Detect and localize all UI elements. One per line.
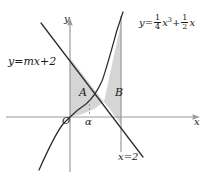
alpha-label: α: [85, 117, 92, 127]
fraction-numerator: 1: [181, 14, 188, 22]
curve-fraction-one-quarter: 1 4: [154, 14, 161, 32]
origin-label: O: [62, 116, 70, 126]
x-axis-label: x: [194, 117, 200, 127]
y-axis-label: y: [64, 14, 70, 24]
line-equation-label: y=mx+2: [8, 56, 56, 67]
vertical-line-label: x=2: [118, 152, 138, 162]
fraction-denominator: 4: [154, 22, 161, 31]
curve-term2-variable: x: [189, 18, 195, 28]
curve-equation-prefix: y=: [139, 18, 153, 28]
curve-fraction-one-half: 1 2: [181, 14, 188, 32]
curve-equation-label: y= 1 4 x 3 + 1 2 x: [139, 14, 195, 32]
region-a-label: A: [79, 87, 87, 98]
line-mx-plus-2: [41, 23, 143, 157]
curve-term1-exponent: 3: [168, 17, 172, 24]
math-figure: y=mx+2 y= 1 4 x 3 + 1 2 x y x O α A B x=…: [0, 0, 208, 178]
region-b-label: B: [115, 87, 123, 98]
fraction-numerator: 1: [154, 14, 161, 22]
fraction-denominator: 2: [181, 22, 188, 31]
curve-plus-sign: +: [172, 18, 180, 28]
